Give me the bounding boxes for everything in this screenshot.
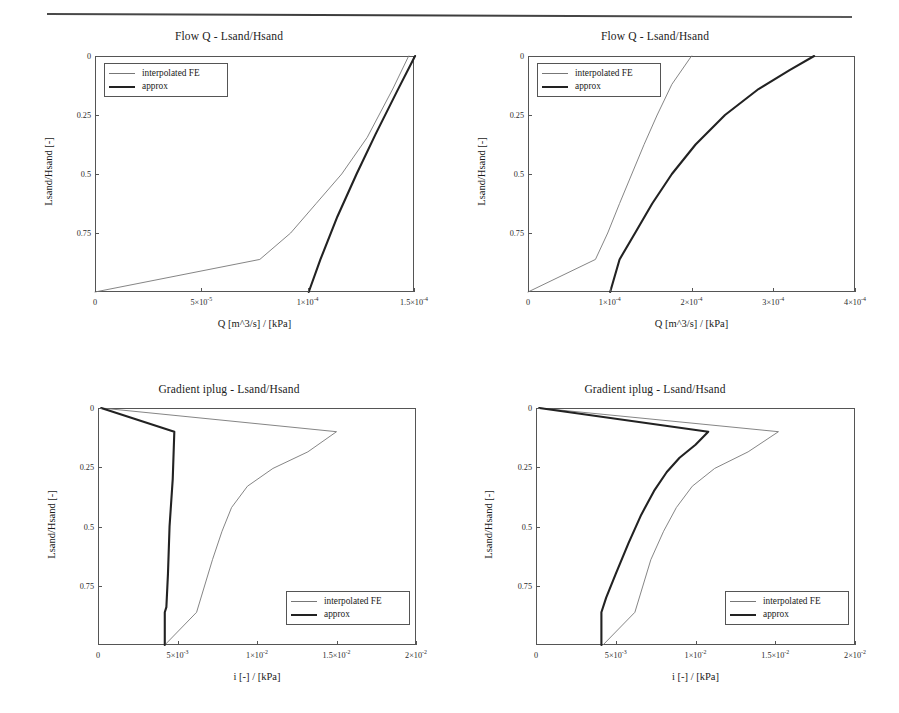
- x-axis-label: Q [m^3/s] / [kPa]: [95, 318, 414, 329]
- figure-page: Flow Q - Lsand/Hsand Q [m^3/s] / [kPa] L…: [0, 0, 899, 713]
- header-rule: [47, 13, 852, 18]
- x-axis-label: Q [m^3/s] / [kPa]: [528, 318, 855, 329]
- x-tick-mark: [257, 641, 258, 645]
- legend-line-thick-icon: [109, 86, 135, 88]
- y-tick-mark: [95, 174, 99, 175]
- legend-line-thin-icon: [109, 73, 135, 74]
- legend-label: interpolated FE: [324, 596, 382, 607]
- curve-layer: [455, 30, 891, 360]
- y-tick-label: 0.5: [65, 170, 91, 179]
- y-tick-label: 0.5: [506, 522, 532, 531]
- y-tick-mark: [536, 586, 540, 587]
- y-axis-label: Lsand/Hsand [-]: [483, 460, 494, 590]
- x-tick-mark: [95, 288, 96, 292]
- legend-item-approx: approx: [730, 608, 842, 621]
- legend-item-interpolated: interpolated FE: [730, 595, 842, 608]
- y-tick-mark: [536, 467, 540, 468]
- legend-item-approx: approx: [291, 608, 403, 621]
- legend-line-thin-icon: [542, 73, 568, 74]
- legend-line-thin-icon: [291, 601, 317, 602]
- x-tick-mark: [692, 288, 693, 292]
- series-thick: [309, 56, 415, 292]
- y-tick-mark: [98, 527, 102, 528]
- x-tick-label: 0: [534, 651, 538, 660]
- x-tick-mark: [201, 288, 202, 292]
- x-tick-mark: [855, 641, 856, 645]
- legend-item-interpolated: interpolated FE: [542, 67, 654, 80]
- x-tick-mark: [616, 641, 617, 645]
- x-tick-label: 0: [96, 651, 100, 660]
- y-tick-label: 0: [68, 404, 94, 413]
- legend-item-interpolated: interpolated FE: [109, 67, 221, 80]
- legend-item-approx: approx: [109, 80, 221, 93]
- y-tick-label: 0: [65, 52, 91, 61]
- y-tick-label: 0.75: [68, 581, 94, 590]
- x-tick-mark: [416, 641, 417, 645]
- x-tick-label: 1×10-2: [685, 651, 707, 660]
- x-tick-label: 2×10-4: [681, 298, 703, 307]
- legend-label: approx: [324, 609, 350, 620]
- legend: interpolated FE approx: [104, 63, 228, 97]
- x-tick-label: 5×10-5: [190, 298, 212, 307]
- curve-layer: [14, 383, 444, 703]
- x-tick-mark: [610, 288, 611, 292]
- y-tick-mark: [95, 56, 99, 57]
- y-axis-label: Lsand/Hsand [-]: [43, 107, 54, 237]
- chart-gradient-iplug-right: Gradient iplug - Lsand/Hsand i [-] / [kP…: [455, 383, 891, 703]
- legend-line-thick-icon: [730, 614, 756, 616]
- y-axis-label: Lsand/Hsand [-]: [46, 460, 57, 590]
- y-tick-label: 0.5: [68, 522, 94, 531]
- legend-line-thin-icon: [730, 601, 756, 602]
- x-tick-mark: [528, 288, 529, 292]
- y-tick-label: 0.75: [498, 229, 524, 238]
- x-axis-label: i [-] / [kPa]: [98, 671, 416, 682]
- legend: interpolated FE approx: [537, 63, 661, 97]
- series-thick: [539, 408, 708, 645]
- y-tick-label: 0.75: [506, 581, 532, 590]
- x-tick-label: 5×10-3: [167, 651, 189, 660]
- x-tick-label: 0: [93, 298, 97, 307]
- y-tick-mark: [98, 408, 102, 409]
- x-tick-mark: [414, 288, 415, 292]
- x-tick-label: 1×10-2: [246, 651, 268, 660]
- curve-layer: [14, 30, 444, 360]
- legend-label: approx: [142, 81, 168, 92]
- y-tick-label: 0.25: [506, 463, 532, 472]
- x-tick-mark: [178, 641, 179, 645]
- y-tick-mark: [528, 56, 532, 57]
- legend-label: interpolated FE: [763, 596, 821, 607]
- x-tick-label: 2×10-2: [844, 651, 866, 660]
- chart-gradient-iplug-left: Gradient iplug - Lsand/Hsand i [-] / [kP…: [14, 383, 444, 703]
- legend-label: interpolated FE: [142, 68, 200, 79]
- x-tick-mark: [337, 641, 338, 645]
- x-tick-label: 5×10-3: [605, 651, 627, 660]
- series-thick: [101, 408, 174, 645]
- x-tick-mark: [696, 641, 697, 645]
- legend-label: interpolated FE: [575, 68, 633, 79]
- curve-layer: [455, 383, 891, 703]
- y-tick-label: 0.25: [498, 111, 524, 120]
- chart-flow-q-left: Flow Q - Lsand/Hsand Q [m^3/s] / [kPa] L…: [14, 30, 444, 360]
- y-tick-label: 0.5: [498, 170, 524, 179]
- x-tick-label: 0: [526, 298, 530, 307]
- y-tick-mark: [528, 115, 532, 116]
- y-tick-label: 0.75: [65, 229, 91, 238]
- x-tick-mark: [98, 641, 99, 645]
- y-tick-mark: [528, 174, 532, 175]
- legend-item-approx: approx: [542, 80, 654, 93]
- x-axis-label: i [-] / [kPa]: [536, 671, 855, 682]
- legend-item-interpolated: interpolated FE: [291, 595, 403, 608]
- legend: interpolated FE approx: [286, 591, 410, 625]
- y-tick-mark: [536, 408, 540, 409]
- x-tick-label: 1×10-4: [297, 298, 319, 307]
- y-tick-label: 0.25: [68, 463, 94, 472]
- y-axis-label: Lsand/Hsand [-]: [476, 107, 487, 237]
- x-tick-label: 1.5×10-4: [400, 298, 428, 307]
- y-tick-mark: [98, 586, 102, 587]
- x-tick-label: 1.5×10-2: [323, 651, 351, 660]
- x-tick-label: 2×10-2: [405, 651, 427, 660]
- y-tick-mark: [536, 527, 540, 528]
- y-tick-mark: [95, 233, 99, 234]
- x-tick-label: 1×10-4: [599, 298, 621, 307]
- y-tick-label: 0: [498, 52, 524, 61]
